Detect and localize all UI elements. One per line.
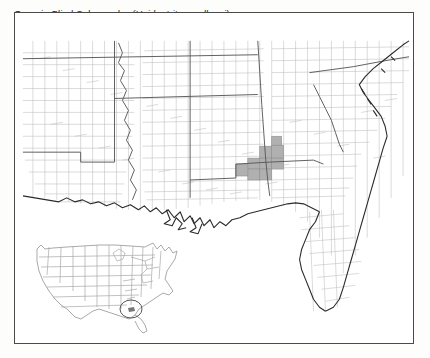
range-county (260, 169, 272, 180)
us-outline (37, 243, 177, 319)
range-county (248, 169, 260, 180)
range-county (272, 158, 284, 169)
range-county (272, 136, 282, 145)
figure-page: Georgia Blind Salamander (Haideotriton w… (0, 0, 430, 358)
range-county (272, 145, 284, 158)
range-county (236, 164, 248, 176)
us-florida-tail (135, 315, 147, 333)
us-locator-svg (27, 235, 187, 335)
inset-locator-map (27, 235, 187, 335)
map-frame (14, 12, 414, 344)
